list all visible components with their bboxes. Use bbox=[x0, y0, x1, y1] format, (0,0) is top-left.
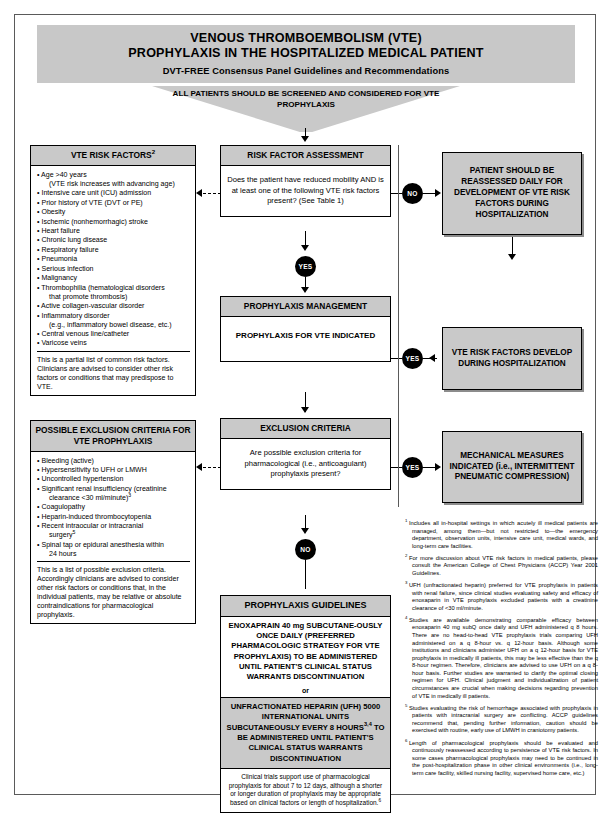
chart-title-line1: VENOUS THROMBOEMBOLISM (VTE) bbox=[41, 31, 571, 46]
list-item: • Central venous line/catheter bbox=[37, 329, 190, 338]
footnote-text: Length of pharmacological prophylaxis sh… bbox=[409, 740, 598, 776]
connector-assessment-to-no bbox=[391, 193, 402, 194]
arrowhead-yes2-to-prophylaxis bbox=[429, 354, 435, 362]
guidelines-duration-note: Clinical trials support use of pharmacol… bbox=[221, 769, 390, 812]
list-item: • Chronic lung disease bbox=[37, 235, 190, 244]
footnote: 1Includes all in-hospital settings in wh… bbox=[405, 520, 598, 550]
footnote-text: For more discussion about VTE risk facto… bbox=[409, 555, 598, 576]
footnote: 3UFH (unfractionated heparin) preferred … bbox=[405, 582, 598, 612]
connector-exclusion-to-yes3 bbox=[391, 467, 402, 468]
exclusion-criteria-decision-box: EXCLUSION CRITERIA Are possible exclusio… bbox=[220, 418, 391, 490]
list-item-continuation: (e.g., inflammatory bowel disease, etc.) bbox=[43, 320, 190, 329]
list-item-superscript: 5 bbox=[73, 529, 76, 535]
risk-factors-title-superscript: 2 bbox=[152, 148, 155, 155]
list-item: • Recent intraocular or intracranialsurg… bbox=[37, 521, 190, 539]
list-item: • Coagulopathy bbox=[37, 502, 190, 511]
footnotes-section: 1Includes all in-hospital settings in wh… bbox=[405, 520, 598, 782]
list-item: • Varicose veins bbox=[37, 338, 190, 347]
exclusion-criteria-question: Are possible exclusion criteria for phar… bbox=[221, 439, 390, 489]
possible-exclusion-criteria-box: POSSIBLE EXCLUSION CRITERIA FOR VTE PROP… bbox=[30, 420, 196, 624]
connector-exclusion-to-list bbox=[203, 467, 221, 468]
arrowhead-exclusion-to-no2 bbox=[301, 528, 309, 534]
ufh-superscript: 3,4 bbox=[364, 721, 372, 727]
guidelines-option-enoxaparin: ENOXAPRAIN 40 mg SUBCUTANE-OUSLY ONCE DA… bbox=[221, 617, 390, 687]
arrowhead-prophylaxis-to-exclusion bbox=[301, 407, 309, 413]
exclusion-criteria-decision-title: EXCLUSION CRITERIA bbox=[221, 419, 390, 439]
list-item-continuation: 24 hours bbox=[43, 549, 190, 558]
arrowhead-yes-to-prophylaxis bbox=[301, 287, 309, 293]
decision-node-no-2: NO bbox=[295, 539, 316, 560]
screening-statement: ALL PATIENTS SHOULD BE SCREENED AND CONS… bbox=[152, 89, 460, 111]
footnote: 4Studies are available demonstrating com… bbox=[405, 617, 598, 700]
list-item-superscript: 3 bbox=[128, 492, 131, 498]
arrowhead-funnel-to-assessment bbox=[301, 136, 309, 142]
exclusion-criteria-note: This is a list of possible exclusion cri… bbox=[37, 561, 190, 619]
arrowhead-exclusion-to-list bbox=[196, 463, 202, 471]
connector-prophylaxis-to-yes2 bbox=[391, 358, 402, 359]
vte-risk-factors-title: VTE RISK FACTORS2 bbox=[31, 146, 195, 166]
decision-node-yes-1: YES bbox=[295, 256, 316, 277]
exclusion-criteria-list: • Bleeding (active)• Hypersensitivity to… bbox=[37, 456, 190, 558]
decision-node-no-1: NO bbox=[402, 183, 423, 204]
arrowhead-assessment-to-riskfactors bbox=[196, 189, 202, 197]
list-item: • Pneumonia bbox=[37, 254, 190, 263]
vte-risk-factors-note: This is a partial list of common risk fa… bbox=[37, 351, 190, 391]
prophylaxis-indicated-statement: PROPHYLAXIS FOR VTE INDICATED bbox=[221, 317, 390, 361]
chart-subtitle: DVT-FREE Consensus Panel Guidelines and … bbox=[41, 66, 571, 76]
footnote-text: UFH (unfractionated heparin) preferred f… bbox=[409, 582, 598, 611]
footnote-text: Studies are available demonstrating comp… bbox=[409, 617, 598, 699]
risk-factor-assessment-question: Does the patient have reduced mobility A… bbox=[221, 166, 390, 216]
connector-no2-to-guidelines bbox=[305, 560, 306, 589]
footnote-text: Includes all in-hospital settings in whi… bbox=[409, 520, 598, 549]
duration-note-superscript: 6 bbox=[378, 798, 381, 803]
column-divider bbox=[398, 145, 399, 507]
prophylaxis-guidelines-box: PROPHYLAXIS GUIDELINES ENOXAPRAIN 40 mg … bbox=[220, 595, 391, 813]
risk-factors-develop-box: VTE RISK FACTORS DEVELOP DURING HOSPITAL… bbox=[442, 327, 582, 390]
risk-factor-assessment-box: RISK FACTOR ASSESSMENT Does the patient … bbox=[220, 145, 391, 217]
list-item: • Thrombophilia (hematological disorders… bbox=[37, 283, 190, 301]
list-item-continuation: surgery5 bbox=[43, 530, 190, 539]
prophylaxis-guidelines-title: PROPHYLAXIS GUIDELINES bbox=[221, 596, 390, 617]
list-item: • Serious infection bbox=[37, 264, 190, 273]
connector-assessment-to-riskfactors bbox=[203, 193, 221, 194]
footnote: 6Length of pharmacological prophylaxis s… bbox=[405, 740, 598, 778]
list-item: • Malignancy bbox=[37, 273, 190, 282]
list-item: • Prior history of VTE (DVT or PE) bbox=[37, 198, 190, 207]
footnote: 2For more discussion about VTE risk fact… bbox=[405, 555, 598, 578]
list-item-continuation: (VTE risk increases with advancing age) bbox=[43, 179, 190, 188]
list-item: • Spinal tap or epidural anesthesia with… bbox=[37, 540, 190, 558]
chart-title-line2: PROPHYLAXIS IN THE HOSPITALIZED MEDICAL … bbox=[41, 46, 571, 61]
list-item: • Obesity bbox=[37, 207, 190, 216]
possible-exclusion-criteria-title: POSSIBLE EXCLUSION CRITERIA FOR VTE PROP… bbox=[31, 421, 195, 452]
list-item: • Intensive care unit (ICU) admission bbox=[37, 188, 190, 197]
flowchart-sheet: VENOUS THROMBOEMBOLISM (VTE) PROPHYLAXIS… bbox=[14, 14, 596, 795]
list-item: • Inflammatory disorder(e.g., inflammato… bbox=[37, 311, 190, 329]
list-item: • Significant renal insufficiency (creat… bbox=[37, 484, 190, 502]
arrowhead-no-to-reassess bbox=[435, 189, 441, 197]
footnote: 5Studies evaluating the risk of hemorrha… bbox=[405, 705, 598, 735]
list-item: • Heart failure bbox=[37, 226, 190, 235]
list-item: • Age >40 years(VTE risk increases with … bbox=[37, 170, 190, 188]
list-item: • Active collagen-vascular disorder bbox=[37, 301, 190, 310]
vte-risk-factors-box: VTE RISK FACTORS2 • Age >40 years(VTE ri… bbox=[30, 145, 196, 396]
chart-header: VENOUS THROMBOEMBOLISM (VTE) PROPHYLAXIS… bbox=[37, 25, 575, 83]
vte-risk-factors-list: • Age >40 years(VTE risk increases with … bbox=[37, 170, 190, 348]
prophylaxis-management-title: PROPHYLAXIS MANAGEMENT bbox=[221, 297, 390, 317]
decision-node-yes-2: YES bbox=[402, 348, 423, 369]
list-item: • Uncontrolled hypertension bbox=[37, 474, 190, 483]
list-item: • Ischemic (nonhemorrhagic) stroke bbox=[37, 217, 190, 226]
list-item: • Bleeding (active) bbox=[37, 456, 190, 465]
footnote-text: Studies evaluating the risk of hemorrhag… bbox=[409, 705, 598, 734]
decision-node-yes-3: YES bbox=[402, 457, 423, 478]
arrowhead-yes3-to-mechanical bbox=[435, 463, 441, 471]
list-item-continuation: clearance <30 ml/minute)3 bbox=[43, 493, 190, 502]
guidelines-or-connector: or bbox=[221, 687, 390, 697]
list-item: • Respiratory failure bbox=[37, 245, 190, 254]
reassess-daily-box: PATIENT SHOULD BE REASSESSED DAILY FOR D… bbox=[442, 152, 582, 235]
arrowhead-assessment-to-yes bbox=[301, 245, 309, 251]
list-item-continuation: that promote thrombosis) bbox=[43, 292, 190, 301]
list-item: • Hypersensitivity to UFH or LMWH bbox=[37, 465, 190, 474]
risk-factor-assessment-title: RISK FACTOR ASSESSMENT bbox=[221, 146, 390, 166]
prophylaxis-management-box: PROPHYLAXIS MANAGEMENT PROPHYLAXIS FOR V… bbox=[220, 296, 391, 362]
mechanical-measures-box: MECHANICAL MEASURES INDICATED (i.e., INT… bbox=[442, 431, 582, 503]
